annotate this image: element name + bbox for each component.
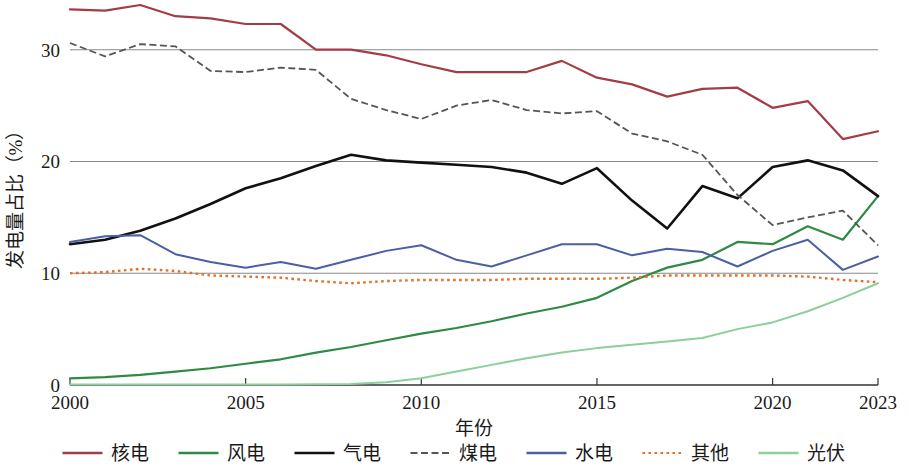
legend-item-2[interactable]: 气电: [295, 443, 381, 464]
legend-item-6[interactable]: 光伏: [759, 443, 845, 464]
chart-figure: 0102030200020052010201520202023 年份发电量占比（…: [0, 0, 909, 468]
legend-label: 风电: [227, 443, 265, 464]
x-tick-label-2023: 2023: [859, 392, 897, 413]
legend-item-5[interactable]: 其他: [643, 443, 729, 464]
legend-label: 水电: [575, 443, 613, 464]
series-line-nuclear: [70, 5, 878, 139]
series-line-gas: [70, 155, 878, 244]
x-tick-label-2005: 2005: [227, 392, 265, 413]
tick-labels-group: 0102030200020052010201520202023: [41, 40, 897, 413]
y-tick-label-20: 20: [41, 151, 60, 172]
x-axis-title: 年份: [455, 418, 493, 439]
legend-item-3[interactable]: 煤电: [411, 443, 497, 464]
legend-item-4[interactable]: 水电: [527, 443, 613, 464]
line-chart-canvas: 0102030200020052010201520202023 年份发电量占比（…: [0, 0, 909, 468]
series-line-hydro: [70, 235, 878, 270]
x-tick-label-2000: 2000: [51, 392, 89, 413]
legend-label: 气电: [343, 443, 381, 464]
legend-label: 其他: [691, 443, 729, 464]
legend-label: 核电: [111, 443, 149, 464]
y-axis-title: 发电量占比（%）: [5, 121, 26, 270]
x-tick-label-2010: 2010: [402, 392, 440, 413]
chart-legend: 核电风电气电煤电水电其他光伏: [63, 443, 845, 464]
data-series-group: [70, 5, 878, 384]
legend-item-0[interactable]: 核电: [63, 443, 149, 464]
x-tick-label-2015: 2015: [578, 392, 616, 413]
series-line-coal: [70, 43, 878, 245]
y-tick-label-30: 30: [41, 40, 60, 61]
x-tick-label-2020: 2020: [754, 392, 792, 413]
legend-label: 光伏: [807, 443, 845, 464]
legend-label: 煤电: [459, 443, 497, 464]
gridlines-group: [70, 50, 878, 274]
legend-item-1[interactable]: 风电: [179, 443, 265, 464]
y-tick-label-10: 10: [41, 263, 60, 284]
series-line-other: [70, 269, 878, 284]
series-line-wind: [70, 196, 878, 378]
